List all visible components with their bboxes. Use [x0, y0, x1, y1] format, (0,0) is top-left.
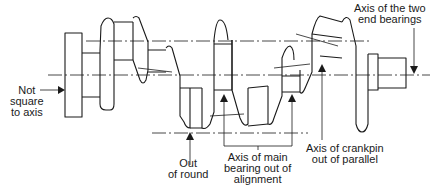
crankpin-label: Axis of crankpin out of parallel [306, 143, 384, 165]
crankpin-3 [248, 86, 268, 126]
crank-web-2 [133, 17, 148, 84]
main-bearing-label: Axis of main bearing out of alignment [224, 152, 291, 185]
skew-line-1 [138, 68, 172, 72]
end-bearings-arrowhead [410, 66, 418, 74]
main-journal-2 [148, 50, 166, 72]
crank-web-7 [300, 16, 342, 93]
crankpin-arrowhead [318, 64, 326, 72]
main-bearing-bracket [224, 102, 292, 146]
main-bearing-arrowhead-left [220, 94, 228, 102]
skew-line-4 [296, 34, 338, 46]
skew-line-3 [274, 64, 310, 68]
crankpin-2 [180, 88, 202, 128]
main-journal-4 [282, 76, 300, 92]
crank-web-6 [268, 46, 294, 124]
not-square-arrowhead [58, 86, 65, 94]
not-square-label: Not square to axis [10, 85, 44, 118]
out-of-round-label: Out of round [168, 158, 208, 180]
end-shaft [368, 54, 406, 90]
end-bearings-label: Axis of the two end bearings [354, 3, 426, 25]
main-journal-3 [214, 40, 232, 90]
crank-web-3 [166, 46, 190, 128]
main-bearing-arrowhead-right [288, 94, 296, 102]
crank-web-1 [100, 18, 114, 110]
crank-web-5 [232, 40, 248, 125]
